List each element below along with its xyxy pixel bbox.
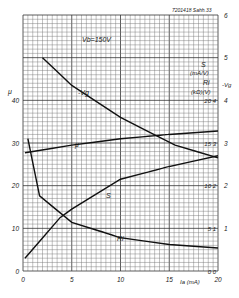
s-curve-label: S [106,192,111,199]
vg-axis-label: -Vg [222,82,232,88]
tick-label: 20 4 [203,98,216,104]
ri-unit-label: (kΩ)(V) [191,89,211,95]
tick-label: 10 [117,276,125,283]
tick-label: 1 [224,225,228,232]
ri-axis-label: Ri [203,79,210,86]
vg-curve-label: -Vg [78,89,89,97]
vb-annotation: Vb=150V [82,36,112,43]
tick-label: 2 [223,182,228,189]
s-axis-label: S [201,61,206,68]
tick-label: 0 [15,268,19,275]
mu-axis-label: μ [7,88,12,96]
grid [23,15,218,271]
tick-label: 15 3 [204,141,216,147]
curve-ri [28,139,218,248]
tick-label: 6 [224,12,228,19]
tick-label: 5 [224,54,228,61]
tick-label: 3 [224,140,228,147]
tick-label: 0 [21,276,25,283]
tick-label: 10 [12,225,20,232]
tick-label: 5 1 [208,226,216,232]
chart: 051015200102030401234560 05 110 215 320 … [0,0,239,298]
tick-label: 4 [224,97,228,104]
x-axis-label: Ia (mA) [180,279,200,285]
tick-label: 10 2 [204,183,216,189]
tick-label: 0 0 [208,269,217,275]
header-code: 7201418 Sahh.33 [172,7,212,13]
tick-label: 20 [11,182,20,189]
tick-label: 30 [12,140,20,147]
tick-label: 20 [213,276,222,283]
tick-label: 40 [12,97,20,104]
mu-curve-label: μ [74,141,79,149]
ri-curve-label: Ri [117,235,124,242]
s-unit-label: (mA/V) [190,70,209,76]
tick-label: 5 [70,276,74,283]
tick-label: 15 [166,276,174,283]
